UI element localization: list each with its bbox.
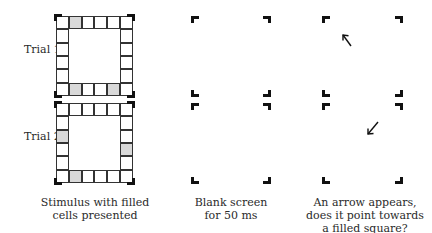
grid-cell [82,83,95,96]
caption-line: a filled square? [302,222,428,233]
filled-cell [56,130,69,143]
corner-bracket-icon [54,101,62,108]
caption-line: for 50 ms [176,209,286,222]
grid-center [69,143,82,156]
grid-cell [107,16,120,29]
caption-blank: Blank screen for 50 ms [176,196,286,222]
grid-center [107,29,120,42]
grid-cell [82,16,95,29]
grid-cell [56,43,69,56]
grid-cell [120,116,133,129]
grid-cell [56,69,69,82]
grid-center [94,69,107,82]
grid-center [94,56,107,69]
grid-cell [120,29,133,42]
grid-center [69,156,82,169]
grid-center [107,130,120,143]
grid-cell [56,29,69,42]
corner-bracket-icon [127,101,135,108]
grid-center [82,56,95,69]
grid-cell [107,170,120,183]
arrow-down-left-icon [364,118,384,138]
caption-line: Stimulus with filled [40,196,150,209]
grid-cell [94,170,107,183]
corner-bracket-icon [54,178,62,185]
grid-center [94,143,107,156]
corner-bracket-icon [263,103,271,110]
filled-cell [107,83,120,96]
corner-bracket-icon [395,16,403,23]
grid-center [82,69,95,82]
corner-bracket-icon [54,14,62,21]
grid-center [94,29,107,42]
grid-cell [120,56,133,69]
grid-center [82,116,95,129]
grid-center [69,116,82,129]
grid-cell [56,56,69,69]
corner-bracket-icon [395,90,403,97]
grid-cell [69,103,82,116]
grid-cell [94,16,107,29]
grid-center [82,43,95,56]
caption-line: An arrow appears, [302,196,428,209]
stimulus-grid-trial-2 [56,103,133,183]
grid-center [94,43,107,56]
grid-center [107,116,120,129]
grid-center [107,56,120,69]
corner-bracket-icon [127,14,135,21]
grid-center [69,43,82,56]
corner-bracket-icon [263,16,271,23]
grid-center [82,29,95,42]
grid-center [94,116,107,129]
grid-cell [120,156,133,169]
grid-cell [56,143,69,156]
corner-bracket-icon [322,16,330,23]
grid-cell [120,43,133,56]
corner-bracket-icon [395,103,403,110]
filled-cell [69,170,82,183]
grid-center [69,29,82,42]
corner-bracket-icon [127,91,135,98]
grid-center [107,156,120,169]
caption-line: cells presented [40,209,150,222]
grid-cell [94,83,107,96]
grid-cell [82,103,95,116]
grid-center [69,56,82,69]
grid-cell [120,130,133,143]
grid-cell [56,116,69,129]
corner-bracket-icon [191,16,199,23]
caption-line: Blank screen [176,196,286,209]
filled-cell [69,16,82,29]
grid-center [107,69,120,82]
grid-center [94,156,107,169]
grid-center [82,156,95,169]
corner-bracket-icon [322,90,330,97]
corner-bracket-icon [263,177,271,184]
grid-center [69,69,82,82]
filled-cell [120,143,133,156]
corner-bracket-icon [127,178,135,185]
grid-cell [56,156,69,169]
arrow-up-left-icon [338,30,358,50]
grid-center [82,130,95,143]
grid-center [69,130,82,143]
grid-center [107,43,120,56]
stimulus-grid-trial-1 [56,16,133,96]
caption-stimulus: Stimulus with filled cells presented [40,196,150,222]
corner-bracket-icon [191,103,199,110]
caption-line: does it point towards [302,209,428,222]
caption-arrow: An arrow appears, does it point towards … [302,196,428,233]
corner-bracket-icon [191,90,199,97]
grid-cell [107,103,120,116]
grid-center [107,143,120,156]
grid-center [82,143,95,156]
corner-bracket-icon [322,177,330,184]
corner-bracket-icon [322,103,330,110]
filled-cell [69,83,82,96]
corner-bracket-icon [54,91,62,98]
grid-cell [82,170,95,183]
grid-cell [120,69,133,82]
grid-cell [94,103,107,116]
corner-bracket-icon [191,177,199,184]
grid-center [94,130,107,143]
